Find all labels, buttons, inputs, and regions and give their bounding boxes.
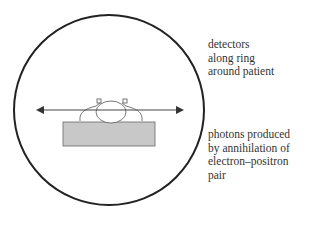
photons-label: photons produced by annihilation of elec… [208, 128, 290, 182]
patient-figure [80, 99, 142, 123]
left-arrowhead-icon [36, 106, 44, 114]
right-arrowhead-icon [176, 106, 184, 114]
detectors-label: detectors along ring around patient [208, 38, 274, 79]
patient-table [63, 122, 155, 146]
